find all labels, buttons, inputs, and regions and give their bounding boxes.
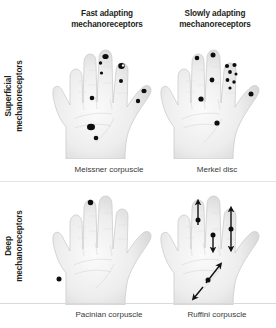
receptor-dot [90,96,95,101]
receptor-dot [225,64,229,68]
receptor-dot [229,227,234,232]
receptor-dot [232,80,235,83]
caption-pacinian-corpuscle: Pacinian corpuscle [50,310,168,320]
caption-meissner-corpuscle: Meissner corpuscle [50,165,168,175]
hand-diagram-ruffini [156,187,266,305]
receptor-dot [206,278,211,283]
receptor-dot [232,63,236,67]
receptor-dot [211,53,216,58]
column-header-slowly-adapting: Slowly adapting mechanoreceptors [160,9,270,30]
receptor-dot [119,79,123,83]
caption-merkel-disc: Merkel disc [158,165,276,175]
receptor-dot [228,70,232,74]
receptor-dot [196,218,201,223]
row-divider-lower [0,303,276,304]
receptor-dot [235,73,238,76]
receptor-dot-highlight [122,64,124,66]
row-divider-upper [0,181,276,182]
receptor-dot [141,89,146,93]
row-label-deep: Deep mechanoreceptors [4,187,25,305]
receptor-dot [87,124,95,131]
hand-silhouette [161,50,259,159]
receptor-dot [100,71,103,74]
receptor-dot [249,92,254,97]
caption-ruffini-corpuscle: Ruffini corpuscle [158,310,276,320]
receptor-dot [211,233,216,238]
hand-diagram-merkel [156,41,266,159]
row-label-superficial-line1: Superficial [4,37,15,155]
row-label-deep-line2: mechanoreceptors [15,187,26,305]
column-header-slow-line2: mechanoreceptors [160,20,270,31]
receptor-dot [198,96,203,101]
receptor-dot [99,61,102,64]
hand-diagram-meissner [48,41,158,159]
receptor-dot [136,99,140,103]
mechanoreceptor-figure: Fast adapting mechanoreceptors Slowly ad… [0,0,276,328]
column-header-fast-line2: mechanoreceptors [52,20,162,31]
receptor-dot [88,200,93,205]
hand-diagram-pacinian [48,187,158,305]
row-label-deep-line1: Deep [4,187,15,305]
receptor-dot [228,86,231,89]
column-header-fast-adapting: Fast adapting mechanoreceptors [52,9,162,30]
receptor-dot [94,136,99,141]
column-header-slow-line1: Slowly adapting [160,9,270,20]
receptor-dot [102,54,108,59]
receptor-dot [195,56,200,61]
receptor-dot [57,277,62,282]
column-header-fast-line1: Fast adapting [52,9,162,20]
hand-silhouette [53,196,151,305]
hand-silhouette [53,50,151,159]
receptor-dot [214,120,219,125]
receptor-dot [226,78,230,82]
row-label-superficial-line2: mechanoreceptors [15,37,26,155]
row-label-superficial: Superficial mechanoreceptors [4,37,25,155]
hand-silhouette [161,196,259,305]
receptor-dot [210,78,215,83]
